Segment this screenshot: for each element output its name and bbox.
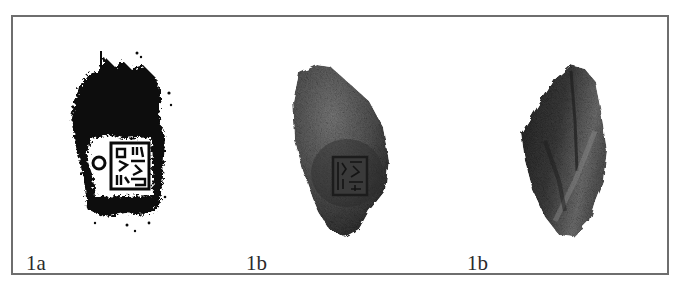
panel-1b-sealing-reverse [515, 61, 615, 241]
seal-rubbing-image [65, 47, 185, 237]
clay-sealing-reverse-image [515, 61, 615, 241]
panel-label-1a: 1a [26, 253, 46, 274]
panel-1b-sealing-front [289, 61, 399, 241]
panel-label-1b-front: 1b [246, 253, 267, 274]
panel-1a-rubbing [65, 47, 185, 237]
clay-sealing-front-image [289, 61, 399, 241]
panel-label-1b-reverse: 1b [467, 253, 488, 274]
figure-frame: 1a 1b 1b [11, 15, 669, 275]
